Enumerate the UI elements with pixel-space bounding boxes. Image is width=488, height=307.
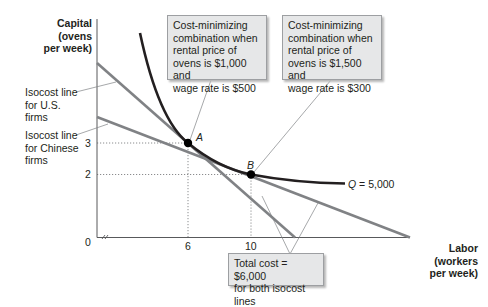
leader-total-2 — [290, 203, 318, 254]
callout-line: combination when — [288, 32, 376, 45]
point-a-label: A — [196, 131, 203, 144]
isoquant-q: Q — [348, 178, 356, 190]
leader-total-1 — [262, 196, 290, 254]
isoquant-value: = 5,000 — [356, 178, 394, 190]
label-line: firms — [25, 154, 79, 167]
y-axis-title-line: per week) — [30, 42, 92, 55]
callout-line: ovens is $1,500 and — [288, 57, 376, 82]
label-line: for U.S. — [25, 99, 78, 112]
callout-total-cost: Total cost = $6,000 for both isocost lin… — [228, 253, 324, 286]
point-a — [184, 139, 192, 147]
x-axis-title-line: (workers — [400, 255, 478, 268]
callout-line: Total cost = $6,000 — [234, 257, 318, 282]
y-tick-2: 2 — [85, 168, 91, 180]
label-line: Isocost line — [25, 86, 78, 99]
callout-line: Cost-minimizing — [288, 19, 376, 32]
y-axis-title-line: (ovens — [30, 30, 92, 43]
china-isocost-label: Isocost line for Chinese firms — [25, 129, 79, 167]
x-axis-title-line: per week) — [400, 267, 478, 280]
callout-line: Cost-minimizing — [173, 19, 261, 32]
y-tick-3: 3 — [85, 137, 91, 149]
callout-line: rental price of — [173, 44, 261, 57]
x-axis-title: Labor (workers per week) — [400, 242, 478, 280]
origin-label: 0 — [85, 236, 91, 248]
callout-line: combination when — [173, 32, 261, 45]
us-isocost-label: Isocost line for U.S. firms — [25, 86, 78, 124]
y-axis-title: Capital (ovens per week) — [30, 17, 92, 55]
callout-box-b: Cost-minimizing combination when rental … — [282, 15, 382, 80]
x-tick-6: 6 — [185, 240, 191, 252]
point-b-label: B — [247, 159, 254, 172]
x-axis-title-line: Labor — [400, 242, 478, 255]
point-b — [247, 170, 255, 178]
callout-line: ovens is $1,000 and — [173, 57, 261, 82]
label-line: firms — [25, 111, 78, 124]
callout-line: rental price of — [288, 44, 376, 57]
leader-us — [76, 82, 116, 92]
isoquant-label: Q = 5,000 — [348, 178, 394, 191]
leader-china — [76, 124, 108, 135]
label-line: for Chinese — [25, 142, 79, 155]
label-line: Isocost line — [25, 129, 79, 142]
callout-box-a: Cost-minimizing combination when rental … — [167, 15, 267, 80]
callout-line: for both isocost lines — [234, 282, 318, 307]
callout-line: wage rate is $300 — [288, 82, 376, 95]
callout-line: wage rate is $500 — [173, 82, 261, 95]
x-tick-10: 10 — [245, 240, 257, 252]
y-axis-title-line: Capital — [30, 17, 92, 30]
